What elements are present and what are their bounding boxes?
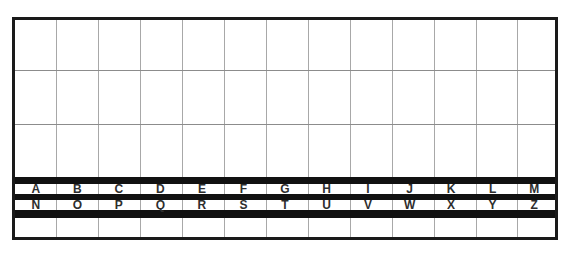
- letter-cell: Y: [472, 200, 514, 210]
- letter-cell: C: [98, 184, 140, 194]
- letter-cell: A: [15, 184, 57, 194]
- letter-cell: T: [264, 200, 306, 210]
- letter-cell: K: [430, 184, 472, 194]
- letter-cell: J: [389, 184, 431, 194]
- letter-cell: R: [181, 200, 223, 210]
- letter-row-n-z: N O P Q R S T U V W X Y Z: [15, 200, 555, 210]
- letter-cell: W: [389, 200, 431, 210]
- grid-row-divider: [15, 70, 555, 71]
- letter-cell: O: [57, 200, 99, 210]
- letter-cell: V: [347, 200, 389, 210]
- letter-cell: G: [264, 184, 306, 194]
- grid-row-divider: [15, 124, 555, 125]
- letter-row-a-m: A B C D E F G H I J K L M: [15, 184, 555, 194]
- letter-cell: F: [223, 184, 265, 194]
- letter-cell: E: [181, 184, 223, 194]
- letter-cell: L: [472, 184, 514, 194]
- letter-cell: X: [430, 200, 472, 210]
- letter-cell: B: [57, 184, 99, 194]
- letter-cell: N: [15, 200, 57, 210]
- letter-cell: U: [306, 200, 348, 210]
- letter-cell: Q: [140, 200, 182, 210]
- letter-cell: M: [513, 184, 555, 194]
- letter-grid-board: A B C D E F G H I J K L M N O P Q R S T …: [12, 17, 558, 240]
- letter-cell: Z: [513, 200, 555, 210]
- letter-cell: P: [98, 200, 140, 210]
- letter-cell: H: [306, 184, 348, 194]
- letter-cell: D: [140, 184, 182, 194]
- letter-cell: I: [347, 184, 389, 194]
- letter-cell: S: [223, 200, 265, 210]
